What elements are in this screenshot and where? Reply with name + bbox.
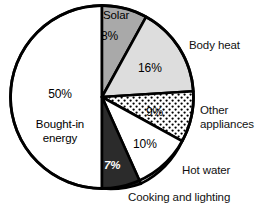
pie-chart: Solar 8% Body heat 16% Other appliances … [0, 0, 258, 210]
pie-chart-svg [0, 0, 258, 210]
pie-slice-bought-in-energy[interactable] [11, 6, 102, 189]
